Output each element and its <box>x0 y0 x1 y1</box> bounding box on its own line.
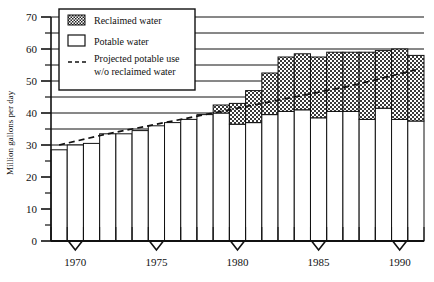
bar-potable-water <box>310 118 326 241</box>
legend-swatch-reclaimed-water <box>68 15 85 25</box>
legend-label-potable-water: Potable water <box>94 36 149 47</box>
bar-potable-water <box>375 108 391 241</box>
x-tick-label: 1990 <box>389 256 412 268</box>
x-tick-label: 1985 <box>308 256 331 268</box>
bar-reclaimed-water <box>327 52 343 111</box>
bar-potable-water <box>116 134 132 241</box>
x-tick-label: 1980 <box>227 256 250 268</box>
y-tick-label: 20 <box>26 171 38 183</box>
x-tick-label: 1970 <box>64 256 87 268</box>
bar-reclaimed-water <box>229 103 245 124</box>
bar-potable-water <box>165 123 181 241</box>
bar-reclaimed-water <box>343 52 359 111</box>
bar-potable-water <box>327 111 343 241</box>
bar-potable-water <box>213 113 229 241</box>
bar-potable-water <box>51 150 67 241</box>
bar-potable-water <box>408 121 424 241</box>
bar-potable-water <box>294 110 310 241</box>
y-tick-label: 10 <box>26 203 38 215</box>
bar-reclaimed-water <box>262 73 278 115</box>
y-tick-label: 0 <box>32 235 38 247</box>
bar-potable-water <box>278 111 294 241</box>
y-axis-title: Million gallons per day <box>5 90 15 175</box>
bar-potable-water <box>132 131 148 241</box>
bar-reclaimed-water <box>408 55 424 121</box>
y-tick-label: 30 <box>26 139 38 151</box>
y-tick-label: 50 <box>26 75 38 87</box>
bar-potable-water <box>392 119 408 241</box>
legend-label-reclaimed-water: Reclaimed water <box>94 15 162 26</box>
chart-svg: 010203040506070 Million gallons per day … <box>0 0 434 282</box>
legend-label-projection-line-2: w/o reclaimed water <box>94 66 176 77</box>
bar-reclaimed-water <box>278 57 294 111</box>
legend-label-projection-line-1: Projected potable use <box>94 53 180 64</box>
y-tick-label: 70 <box>26 11 38 23</box>
bar-potable-water <box>67 145 83 241</box>
bar-potable-water <box>229 124 245 241</box>
y-tick-label: 40 <box>26 107 38 119</box>
bar-potable-water <box>343 111 359 241</box>
bar-reclaimed-water <box>294 54 310 110</box>
bar-potable-water <box>262 115 278 241</box>
bar-potable-water <box>100 134 116 241</box>
bar-potable-water <box>148 126 164 241</box>
bar-potable-water <box>83 143 99 241</box>
bar-potable-water <box>181 119 197 241</box>
y-tick-label: 60 <box>26 43 38 55</box>
bar-potable-water <box>246 123 262 241</box>
chart-container: 010203040506070 Million gallons per day … <box>0 0 434 282</box>
bar-reclaimed-water <box>310 57 326 118</box>
legend: Reclaimed water Potable water Projected … <box>59 9 195 90</box>
bar-reclaimed-water <box>359 52 375 119</box>
bar-reclaimed-water <box>392 49 408 119</box>
x-tick-label: 1975 <box>145 256 168 268</box>
bar-potable-water <box>359 119 375 241</box>
bar-potable-water <box>197 115 213 241</box>
legend-swatch-potable-water <box>68 35 85 46</box>
